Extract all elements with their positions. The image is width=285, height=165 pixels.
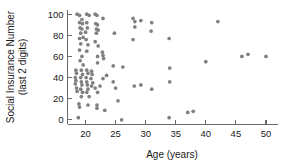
data-point bbox=[98, 84, 102, 88]
data-point bbox=[84, 76, 88, 80]
data-point bbox=[73, 76, 77, 80]
data-point bbox=[150, 21, 154, 25]
data-point bbox=[150, 87, 154, 91]
data-point bbox=[139, 19, 143, 23]
data-point bbox=[84, 38, 88, 42]
data-point bbox=[96, 44, 100, 48]
data-point bbox=[79, 95, 83, 99]
data-point bbox=[86, 71, 90, 75]
data-point bbox=[168, 66, 172, 70]
data-point bbox=[113, 31, 117, 35]
data-point bbox=[204, 60, 208, 64]
data-point bbox=[101, 54, 105, 58]
data-point bbox=[78, 37, 82, 41]
data-point bbox=[85, 90, 89, 94]
data-point bbox=[81, 73, 85, 77]
data-point bbox=[81, 63, 85, 67]
y-tick-label: 60 bbox=[53, 51, 64, 62]
data-point bbox=[246, 52, 250, 56]
x-tick-label: 50 bbox=[261, 128, 272, 139]
data-point bbox=[111, 64, 115, 68]
y-tick-label: 0 bbox=[58, 114, 63, 125]
data-point bbox=[84, 30, 88, 34]
data-point bbox=[74, 68, 78, 72]
data-point bbox=[111, 80, 115, 84]
y-axis-title-line2: (last 2 digits) bbox=[17, 39, 28, 96]
data-point bbox=[86, 87, 90, 91]
data-point bbox=[93, 40, 97, 44]
data-point bbox=[120, 118, 124, 122]
data-point bbox=[132, 84, 136, 88]
data-point bbox=[80, 83, 84, 87]
data-point bbox=[95, 13, 99, 17]
x-tick-label: 30 bbox=[140, 128, 151, 139]
data-point bbox=[85, 21, 89, 25]
data-point bbox=[89, 77, 93, 81]
x-axis-ticks: 20253035404550 bbox=[80, 120, 271, 139]
data-point bbox=[95, 106, 99, 110]
x-tick-label: 45 bbox=[231, 128, 242, 139]
data-point bbox=[121, 65, 125, 69]
data-point bbox=[96, 55, 100, 59]
data-point bbox=[101, 50, 105, 54]
data-point bbox=[149, 29, 153, 33]
data-point bbox=[77, 102, 81, 106]
x-tick-label: 25 bbox=[110, 128, 121, 139]
data-point bbox=[96, 90, 100, 94]
data-point bbox=[95, 103, 99, 107]
data-point bbox=[79, 76, 83, 80]
data-point bbox=[95, 31, 99, 35]
x-axis-title: Age (years) bbox=[146, 149, 198, 160]
data-point bbox=[186, 111, 190, 115]
x-tick-label: 20 bbox=[80, 128, 91, 139]
data-point bbox=[78, 59, 82, 63]
data-point bbox=[216, 20, 220, 24]
data-point bbox=[75, 86, 79, 90]
y-axis-title-line1: Social Insurance Number bbox=[5, 10, 16, 123]
data-point bbox=[131, 38, 135, 42]
data-point bbox=[78, 48, 82, 52]
data-point bbox=[79, 42, 83, 46]
data-point bbox=[86, 83, 90, 87]
data-point bbox=[167, 37, 171, 41]
data-point bbox=[87, 13, 91, 17]
data-point bbox=[74, 79, 78, 83]
data-point bbox=[85, 80, 89, 84]
data-point bbox=[101, 17, 105, 21]
data-point bbox=[139, 83, 143, 87]
data-point bbox=[76, 116, 80, 120]
y-tick-label: 80 bbox=[53, 30, 64, 41]
data-point bbox=[79, 87, 83, 91]
data-point bbox=[80, 18, 84, 22]
data-point bbox=[78, 105, 82, 109]
data-point bbox=[102, 57, 106, 61]
scatter-plot-canvas: 020406080100 Social Insurance Number (la… bbox=[0, 0, 285, 165]
data-point bbox=[90, 73, 94, 77]
y-tick-label: 40 bbox=[53, 72, 64, 83]
data-point bbox=[81, 36, 85, 40]
scatter-chart: 020406080100 Social Insurance Number (la… bbox=[0, 0, 285, 165]
data-point bbox=[85, 49, 89, 53]
data-point bbox=[86, 43, 90, 47]
data-point bbox=[264, 55, 268, 59]
data-point bbox=[240, 55, 244, 59]
data-point bbox=[86, 26, 90, 30]
data-point bbox=[168, 80, 172, 84]
data-point bbox=[86, 103, 90, 107]
data-points bbox=[73, 12, 267, 121]
y-tick-label: 20 bbox=[53, 93, 64, 104]
data-point bbox=[133, 25, 137, 29]
data-point bbox=[116, 99, 120, 103]
data-point bbox=[75, 71, 79, 75]
data-point bbox=[191, 109, 195, 113]
data-point bbox=[90, 84, 94, 88]
data-point bbox=[103, 108, 107, 112]
x-tick-label: 35 bbox=[170, 128, 181, 139]
data-point bbox=[131, 17, 135, 21]
y-tick-label: 100 bbox=[48, 9, 64, 20]
data-point bbox=[73, 82, 77, 86]
y-axis: 020406080100 Social Insurance Number (la… bbox=[5, 9, 72, 126]
data-point bbox=[114, 86, 118, 90]
data-point bbox=[78, 13, 82, 17]
data-point bbox=[91, 81, 95, 85]
